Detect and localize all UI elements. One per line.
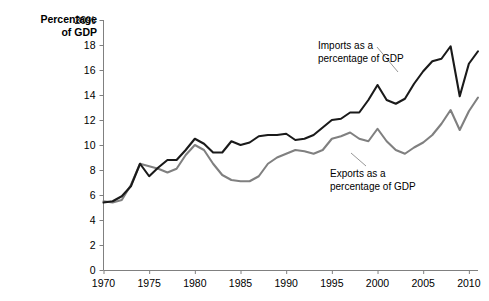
y-axis-tick-label: 16	[84, 64, 96, 76]
chart-background	[0, 0, 489, 301]
x-axis-tick-label: 2000	[366, 277, 390, 289]
y-axis-label-line2: of GDP	[61, 26, 97, 38]
exports-annotation-line2: percentage of GDP	[330, 181, 416, 192]
y-axis-tick-label: 18	[84, 39, 96, 51]
x-axis-tick-labels: 197019751980198519901995200020052010	[92, 277, 481, 289]
imports-annotation-line2: percentage of GDP	[318, 53, 404, 64]
x-axis-tick-label: 2005	[412, 277, 436, 289]
imports-annotation-line1: Imports as a	[318, 40, 373, 51]
y-axis-tick-label: 4	[90, 214, 96, 226]
y-axis-tick-label: 6	[90, 189, 96, 201]
x-axis-tick-label: 1975	[137, 277, 161, 289]
y-axis-tick-label: 14	[84, 89, 96, 101]
x-axis-tick-label: 1985	[229, 277, 253, 289]
y-axis-tick-label: 12	[84, 114, 96, 126]
y-axis-tick-label: 2	[90, 239, 96, 251]
x-axis-tick-label: 1970	[92, 277, 116, 289]
y-axis-tick-label: 0	[90, 264, 96, 276]
line-chart: 02468101214161820% 197019751980198519901…	[0, 0, 489, 301]
x-axis-tick-label: 1980	[183, 277, 207, 289]
y-axis-label-line1: Percentage	[40, 13, 97, 25]
y-axis-tick-label: 10	[84, 139, 96, 151]
x-axis-tick-label: 1995	[320, 277, 344, 289]
y-axis-tick-label: 8	[90, 164, 96, 176]
x-axis-tick-label: 2010	[457, 277, 481, 289]
exports-annotation-line1: Exports as a	[330, 168, 386, 179]
chart-page: 02468101214161820% 197019751980198519901…	[0, 0, 489, 301]
x-axis-tick-label: 1990	[275, 277, 299, 289]
